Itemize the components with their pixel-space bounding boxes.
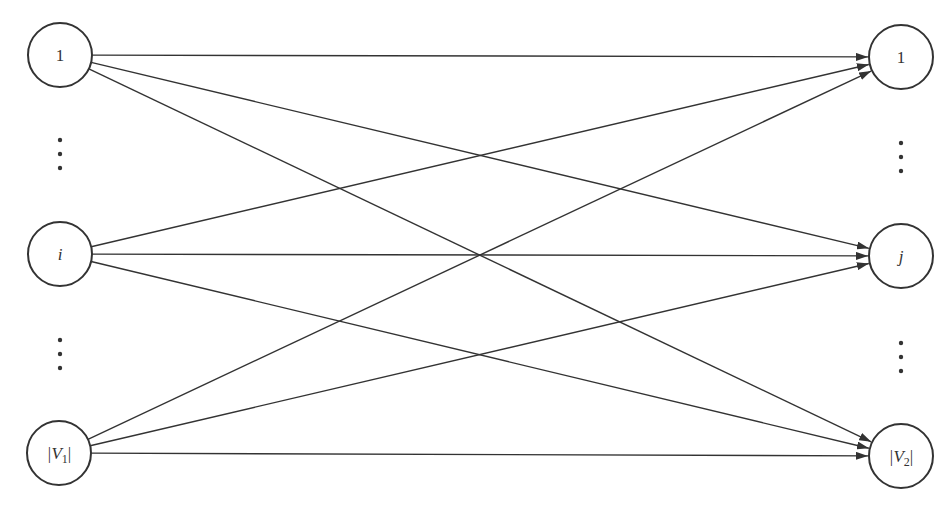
ellipsis-dot: [899, 155, 903, 159]
ellipsis-dot: [58, 366, 62, 370]
node-label: |V2|: [889, 447, 913, 469]
ellipsis-dot: [899, 341, 903, 345]
node-right-RV2: |V2|: [869, 424, 933, 488]
vertical-ellipsis-right-2: [899, 141, 903, 173]
ellipsis-dot: [899, 141, 903, 145]
node-left-Li: i: [28, 222, 92, 286]
bipartite-graph-diagram: 1i|V1|1j|V2|: [0, 0, 952, 513]
ellipsis-dot: [899, 369, 903, 373]
ellipsis-dot: [899, 355, 903, 359]
node-left-LV1: |V1|: [27, 421, 91, 485]
ellipsis-dot: [58, 338, 62, 342]
edge-LV1-to-Rj: [90, 264, 869, 446]
node-label: 1: [897, 48, 906, 67]
ellipsis-dot: [58, 166, 62, 170]
vertical-ellipsis-right-3: [899, 341, 903, 373]
node-right-R1: 1: [869, 25, 933, 89]
node-label: 1: [56, 46, 65, 65]
ellipsis-dot: [899, 169, 903, 173]
edge-Li-to-R1: [91, 65, 869, 247]
vertical-ellipsis-left-1: [58, 338, 62, 370]
node-left-L1: 1: [28, 23, 92, 87]
edge-group: [88, 55, 871, 456]
ellipsis-dot: [58, 352, 62, 356]
ellipsis-dot: [58, 138, 62, 142]
ellipsis-dot: [58, 152, 62, 156]
node-label: j: [897, 247, 904, 266]
vertical-ellipsis-left-0: [58, 138, 62, 170]
node-right-Rj: j: [869, 224, 933, 288]
edge-LV1-to-RV2: [91, 453, 868, 456]
edge-L1-to-R1: [92, 55, 868, 57]
node-label: |V1|: [47, 444, 71, 466]
node-label: i: [58, 245, 63, 264]
